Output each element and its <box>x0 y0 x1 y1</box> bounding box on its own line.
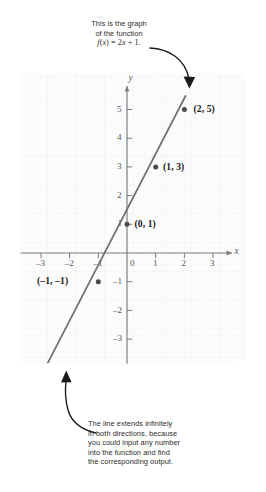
y-tick-label-1: 1 <box>118 218 123 228</box>
paper-surface <box>18 70 248 370</box>
bottom-annotation: The line extends infinitely in both dire… <box>88 419 238 467</box>
x-tick-label--3: –3 <box>36 258 45 268</box>
bottom-annotation-line-3: you could input any number <box>88 438 238 448</box>
bottom-annotation-line-1: The line extends infinitely <box>88 419 238 429</box>
point-label-2-5: (2, 5) <box>194 103 215 114</box>
x-tick-label-3: 3 <box>210 258 215 268</box>
x-tick-label-2: 2 <box>181 258 186 268</box>
bottom-annotation-line-4: into the function and find <box>88 448 238 458</box>
page-root: This is the graph of the function f(x) =… <box>0 0 266 492</box>
y-tick-label--2: –2 <box>113 305 122 315</box>
y-tick-label--3: –3 <box>113 333 122 343</box>
bottom-arrow-head <box>61 371 72 383</box>
x-tick-label-0: 0 <box>130 258 135 268</box>
data-point-neg1-neg1 <box>96 279 101 284</box>
top-annotation-line-1: This is the graph <box>60 19 178 29</box>
graph-paper: –3 –2 –1 0 1 2 3 5 4 3 2 1 –1 –2 –3 y x … <box>18 70 248 370</box>
x-tick-label-1: 1 <box>153 258 158 268</box>
data-point-1-3 <box>153 164 158 169</box>
y-tick-label-2: 2 <box>117 190 122 200</box>
y-tick-label--1: –1 <box>113 276 122 286</box>
point-label-1-3: (1, 3) <box>163 161 184 172</box>
top-annotation-formula: f(x) = 2x + 1. <box>60 38 178 48</box>
bottom-annotation-line-5: the corresponding output. <box>88 457 238 467</box>
bottom-annotation-line-2: in both directions, because <box>88 429 238 439</box>
x-tick-label--1: –1 <box>93 258 102 268</box>
formula-end: + 1. <box>126 38 141 47</box>
top-annotation-line-2: of the function <box>60 29 178 39</box>
formula-mid: ) = 2 <box>106 38 122 47</box>
x-tick-label--2: –2 <box>65 258 74 268</box>
y-tick-label-4: 4 <box>117 132 122 142</box>
x-axis-label: x <box>235 246 239 256</box>
data-point-2-5 <box>182 107 187 112</box>
point-label-0-1: (0, 1) <box>135 218 156 229</box>
data-point-0-1 <box>125 222 130 227</box>
top-annotation: This is the graph of the function f(x) =… <box>60 19 178 48</box>
y-tick-label-3: 3 <box>117 161 122 171</box>
y-axis-label: y <box>129 73 133 83</box>
point-label-neg1-neg1: (–1, –1) <box>37 275 68 286</box>
y-tick-label-5: 5 <box>117 104 122 114</box>
